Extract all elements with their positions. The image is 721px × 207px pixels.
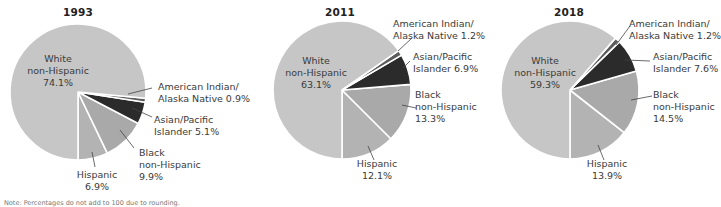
label-black: Black non-Hispanic 9.9% <box>139 147 201 183</box>
label-american-indian: American Indian/ Alaska Native 0.9% <box>158 81 250 105</box>
label-hispanic: Hispanic 13.9% <box>587 158 627 182</box>
label-asian-pacific: Asian/Pacific Islander 5.1% <box>154 114 219 138</box>
label-black: Black non-Hispanic 14.5% <box>653 89 715 125</box>
label-white: White non-Hispanic 63.1% <box>285 55 347 91</box>
label-black: Black non-Hispanic 13.3% <box>415 89 477 125</box>
label-asian-pacific: Asian/Pacific Islander 7.6% <box>653 51 718 75</box>
label-hispanic: Hispanic 12.1% <box>357 158 397 182</box>
label-white: White non-Hispanic 74.1% <box>27 53 89 89</box>
label-asian-pacific: Asian/Pacific Islander 6.9% <box>413 51 478 75</box>
leader-line-amind <box>616 26 630 45</box>
footnote: Note: Percentages do not add to 100 due … <box>4 199 180 207</box>
pie-chart-2018: 2018 White non-Hispanic 59.3% American I… <box>480 0 720 206</box>
label-hispanic: Hispanic 6.9% <box>77 169 117 193</box>
label-white: White non-Hispanic 59.3% <box>514 55 576 91</box>
pie-chart-1993: 1993 White non-Hispanic 74.1% American I… <box>0 0 240 206</box>
pie-chart-2011: 2011 White non-Hispanic 63.1% American I… <box>240 0 480 206</box>
label-american-indian: American Indian/ Alaska Native 1.2% <box>629 18 721 42</box>
label-american-indian: American Indian/ Alaska Native 1.2% <box>393 18 485 42</box>
